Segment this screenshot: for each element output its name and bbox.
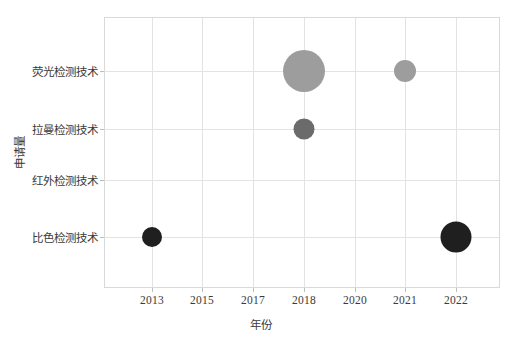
y-axis-tick (100, 237, 104, 238)
x-axis-tick (405, 288, 406, 292)
bubble-chart: 2013201520172018202020212022 荧光检测技术拉曼检测技… (0, 0, 522, 342)
x-axis-tick-label: 2022 (444, 294, 468, 306)
x-axis-tick-label: 2017 (241, 294, 265, 306)
gridline-vertical (202, 18, 203, 287)
y-axis-tick (100, 71, 104, 72)
x-axis-tick-label: 2021 (393, 294, 417, 306)
x-axis-tick (253, 288, 254, 292)
gridline-vertical (405, 18, 406, 287)
x-axis-tick (202, 288, 203, 292)
x-axis-tick-label: 2013 (140, 294, 164, 306)
y-axis-title: 申请量 (11, 136, 27, 169)
y-axis-tick-label: 荧光检测技术 (32, 63, 98, 79)
x-axis-tick-label: 2020 (343, 294, 367, 306)
x-axis-title: 年份 (0, 316, 522, 332)
x-axis-tick (355, 288, 356, 292)
y-axis-tick (100, 180, 104, 181)
bubble-point (283, 50, 325, 92)
y-axis-tick-label: 拉曼检测技术 (32, 121, 98, 137)
y-axis-tick-label: 比色检测技术 (32, 229, 98, 245)
x-axis-tick (456, 288, 457, 292)
gridline-vertical (253, 18, 254, 287)
bubble-point (294, 119, 315, 140)
x-axis-tick (152, 288, 153, 292)
bubble-point (441, 222, 472, 253)
x-axis-tick-label: 2015 (190, 294, 214, 306)
bubble-point (394, 60, 416, 82)
gridline-vertical (355, 18, 356, 287)
gridline-horizontal (105, 180, 499, 181)
y-axis-tick-label: 红外检测技术 (32, 172, 98, 188)
bubble-point (142, 227, 162, 247)
x-axis-tick (304, 288, 305, 292)
x-axis-tick-label: 2018 (292, 294, 316, 306)
y-axis-tick (100, 129, 104, 130)
